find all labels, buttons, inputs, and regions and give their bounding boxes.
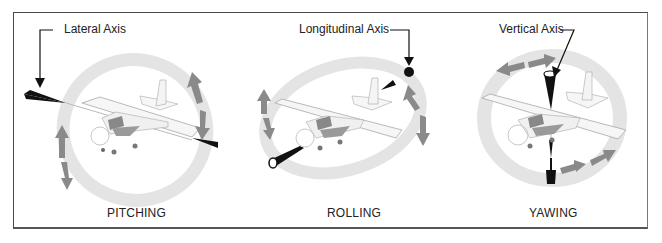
pitching-caption: PITCHING <box>107 206 166 220</box>
panel-rolling: Longitudinal Axis ROLLING <box>220 0 440 243</box>
longitudinal-axis-label: Longitudinal Axis <box>299 22 389 36</box>
rolling-caption: ROLLING <box>327 206 381 220</box>
longitudinal-axis-leader <box>390 30 414 66</box>
panel-yawing: Vertical Axis YAWING <box>440 0 662 243</box>
vertical-axis-label: Vertical Axis <box>499 22 564 36</box>
airplane-icon <box>82 80 200 155</box>
yawing-caption: YAWING <box>529 206 578 220</box>
lateral-axis-leader <box>35 30 53 88</box>
panel-pitching: Lateral Axis PITCHING <box>0 0 220 243</box>
lateral-axis-label: Lateral Axis <box>64 22 126 36</box>
